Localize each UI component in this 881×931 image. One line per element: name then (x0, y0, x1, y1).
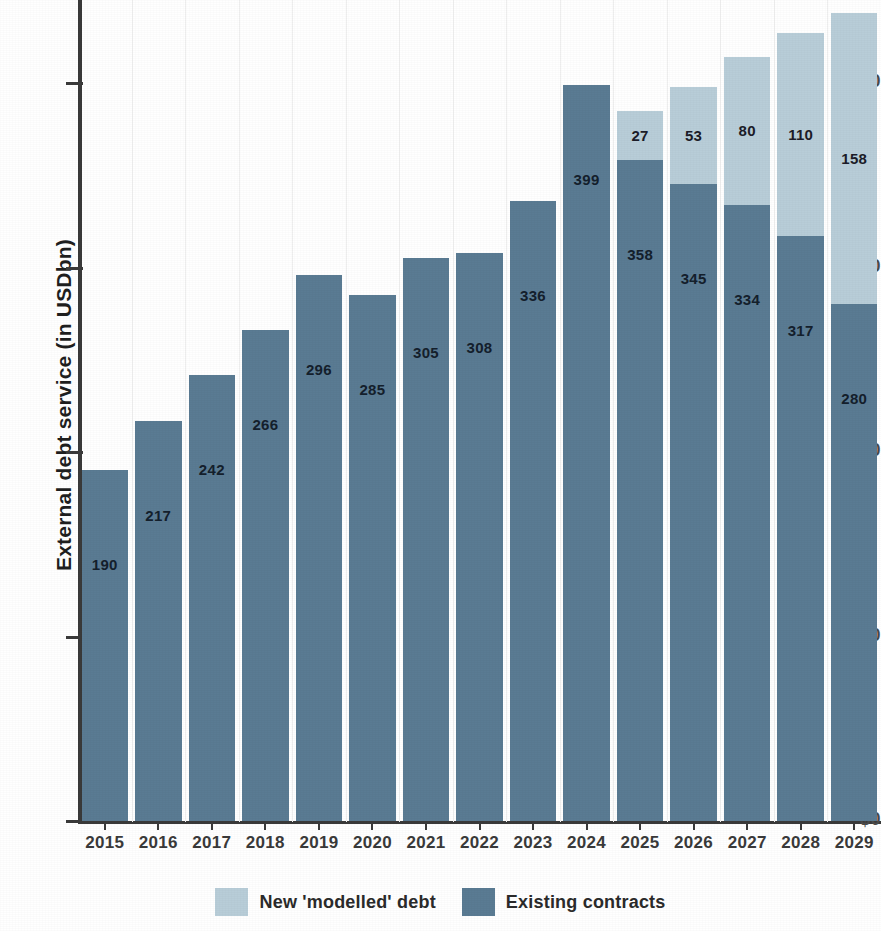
bar-group[interactable]: 285 (349, 0, 396, 822)
external-debt-service-chart: External debt service (in USDbn) $0$100$… (0, 0, 881, 931)
x-tick-mark (586, 823, 588, 830)
bar-group[interactable]: 305 (403, 0, 450, 822)
legend-label: Existing contracts (506, 892, 666, 913)
y-axis-title: External debt service (in USDbn) (52, 195, 76, 615)
bar-group[interactable]: 336 (510, 0, 557, 822)
bar-value-label-new-modelled: 110 (777, 126, 824, 143)
bar-segment-existing[interactable] (135, 421, 182, 821)
x-tick-label: 2015 (78, 833, 132, 853)
x-tick-label: 2024 (560, 833, 614, 853)
bar-group[interactable]: 308 (456, 0, 503, 822)
x-tick-label: 2027 (720, 833, 774, 853)
bar-group[interactable]: 317110 (777, 0, 824, 822)
bar-segment-existing[interactable] (349, 295, 396, 821)
bar-segment-existing[interactable] (296, 275, 343, 821)
bar-segment-existing[interactable] (189, 375, 236, 821)
bar-value-label-new-modelled: 158 (831, 150, 878, 167)
chart-legend: New 'modelled' debtExisting contracts (0, 888, 881, 916)
x-tick-mark (693, 823, 695, 830)
x-tick-label: 2016 (132, 833, 186, 853)
bar-group[interactable]: 34553 (670, 0, 717, 822)
x-tick-mark (104, 823, 106, 830)
bar-value-label-existing: 242 (189, 461, 236, 478)
legend-label: New 'modelled' debt (259, 892, 435, 913)
legend-swatch-icon (462, 888, 495, 916)
x-tick-label: 2029 (827, 833, 881, 853)
x-tick-mark (211, 823, 213, 830)
bar-value-label-existing: 336 (510, 287, 557, 304)
x-tick-label: 2020 (346, 833, 400, 853)
plot-area: 1902172422662962853053083363993582734553… (78, 0, 881, 822)
x-tick-mark (157, 823, 159, 830)
bar-value-label-new-modelled: 53 (670, 127, 717, 144)
x-tick-label: 2017 (185, 833, 239, 853)
bar-value-label-existing: 334 (724, 291, 771, 308)
legend-item[interactable]: New 'modelled' debt (215, 888, 435, 916)
x-tick-mark (746, 823, 748, 830)
legend-swatch-icon (215, 888, 248, 916)
bar-group[interactable]: 280158 (831, 0, 878, 822)
x-tick-mark (853, 823, 855, 830)
bar-group[interactable]: 190 (82, 0, 129, 822)
x-tick-label: 2026 (667, 833, 721, 853)
bar-value-label-existing: 190 (82, 556, 129, 573)
x-tick-label: 2028 (774, 833, 828, 853)
x-tick-mark (639, 823, 641, 830)
bar-segment-existing[interactable] (82, 470, 129, 821)
bar-value-label-new-modelled: 27 (617, 127, 664, 144)
bar-group[interactable]: 296 (296, 0, 343, 822)
x-tick-label: 2019 (292, 833, 346, 853)
bar-segment-existing[interactable] (831, 304, 878, 821)
bar-segment-existing[interactable] (242, 330, 289, 821)
x-tick-mark (479, 823, 481, 830)
bar-value-label-existing: 296 (296, 361, 343, 378)
x-tick-label: 2022 (453, 833, 507, 853)
bar-value-label-existing: 399 (563, 171, 610, 188)
x-tick-mark (532, 823, 534, 830)
x-tick-label: 2018 (239, 833, 293, 853)
bar-value-label-existing: 217 (135, 507, 182, 524)
bar-value-label-existing: 308 (456, 339, 503, 356)
bar-value-label-existing: 358 (617, 246, 664, 263)
bar-value-label-existing: 285 (349, 381, 396, 398)
bar-group[interactable]: 266 (242, 0, 289, 822)
bar-value-label-existing: 266 (242, 416, 289, 433)
x-tick-label: 2021 (399, 833, 453, 853)
bar-value-label-existing: 345 (670, 270, 717, 287)
bar-value-label-existing: 305 (403, 344, 450, 361)
bar-segment-existing[interactable] (403, 258, 450, 821)
x-tick-label: 2023 (506, 833, 560, 853)
legend-item[interactable]: Existing contracts (462, 888, 666, 916)
x-tick-label: 2025 (613, 833, 667, 853)
bar-segment-existing[interactable] (563, 85, 610, 821)
bar-value-label-new-modelled: 80 (724, 122, 771, 139)
x-tick-mark (800, 823, 802, 830)
bar-group[interactable]: 33480 (724, 0, 771, 822)
x-tick-mark (264, 823, 266, 830)
x-tick-mark (318, 823, 320, 830)
x-tick-mark (371, 823, 373, 830)
bar-group[interactable]: 399 (563, 0, 610, 822)
bar-group[interactable]: 242 (189, 0, 236, 822)
bar-group[interactable]: 35827 (617, 0, 664, 822)
bar-value-label-existing: 280 (831, 390, 878, 407)
x-tick-mark (425, 823, 427, 830)
bar-group[interactable]: 217 (135, 0, 182, 822)
bar-value-label-existing: 317 (777, 322, 824, 339)
